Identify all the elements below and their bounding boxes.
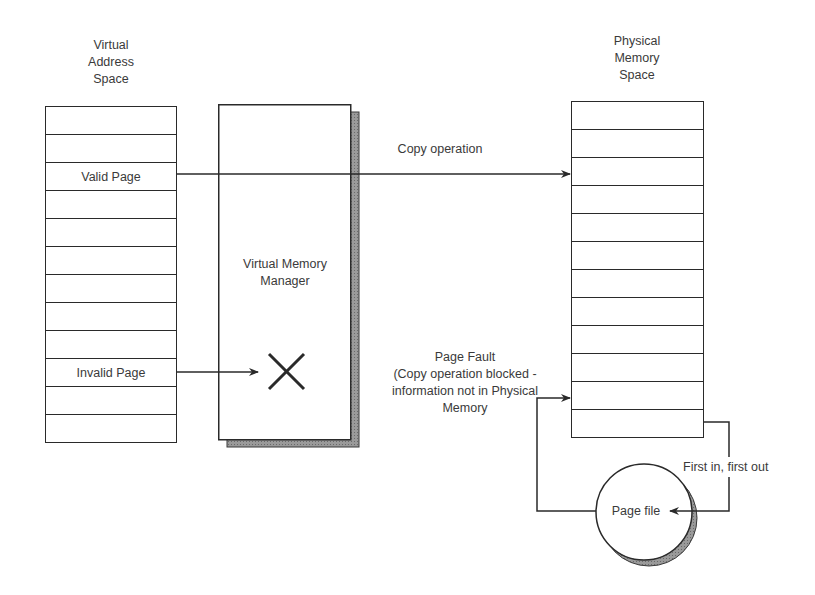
invalid-page-row: Invalid Page [46, 359, 176, 387]
page-fault-line: Memory [375, 400, 555, 417]
physical-page-row [572, 354, 703, 382]
physical-page-row [572, 130, 703, 158]
virtual-page-row [46, 387, 176, 415]
virtual-page-row [46, 107, 176, 135]
page-fault-line: (Copy operation blocked - [375, 366, 555, 383]
physical-page-row [572, 410, 703, 438]
physical-page-row [572, 242, 703, 270]
physical-page-row [572, 270, 703, 298]
fifo-label: First in, first out [683, 459, 783, 476]
page-fault-line: Page Fault [375, 349, 555, 366]
title-line: Space [76, 71, 146, 88]
fifo-line-top [703, 422, 729, 457]
page-fault-label: Page Fault (Copy operation blocked - inf… [375, 349, 555, 417]
physical-memory-stack [571, 101, 704, 438]
valid-page-row: Valid Page [46, 163, 176, 191]
virtual-space-title: Virtual Address Space [76, 37, 146, 88]
virtual-page-row [46, 219, 176, 247]
physical-page-row [572, 186, 703, 214]
virtual-page-row [46, 331, 176, 359]
virtual-page-row [46, 275, 176, 303]
physical-page-row [572, 326, 703, 354]
physical-space-title: Physical Memory Space [602, 33, 672, 84]
physical-page-row [572, 214, 703, 242]
title-line: Physical [602, 33, 672, 50]
virtual-page-row [46, 247, 176, 275]
title-line: Address [76, 54, 146, 71]
title-line: Memory [602, 50, 672, 67]
virtual-page-row [46, 303, 176, 331]
page-file-label: Page file [604, 503, 668, 520]
copy-operation-label: Copy operation [380, 141, 500, 158]
title-line: Virtual [76, 37, 146, 54]
vmm-label: Virtual Memory Manager [224, 256, 346, 290]
virtual-page-row [46, 191, 176, 219]
virtual-page-row [46, 135, 176, 163]
physical-page-row [572, 298, 703, 326]
virtual-address-stack: Valid Page Invalid Page [45, 106, 177, 443]
vmm-label-line: Manager [224, 273, 346, 290]
physical-page-row [572, 102, 703, 130]
vmm-label-line: Virtual Memory [224, 256, 346, 273]
title-line: Space [602, 67, 672, 84]
virtual-page-row [46, 415, 176, 443]
page-fault-line: information not in Physical [375, 383, 555, 400]
physical-page-row [572, 158, 703, 186]
physical-page-row [572, 382, 703, 410]
